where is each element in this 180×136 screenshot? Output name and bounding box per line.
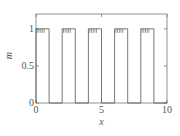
x-tick-label: 5 — [99, 104, 104, 115]
x-tick-label: 0 — [34, 104, 39, 115]
data-series — [36, 29, 167, 103]
y-tick-label: 0.5 — [22, 60, 35, 71]
y-axis-label: m — [3, 52, 14, 59]
y-tick-label: 1 — [29, 23, 34, 34]
x-tick-label: 10 — [162, 104, 172, 115]
y-tick-label: 0 — [29, 97, 34, 108]
x-axis-label: x — [98, 116, 104, 127]
pulse-chart: 051000.51 xm — [0, 0, 180, 136]
axis-labels: xm — [3, 52, 104, 127]
pulse-line — [36, 29, 167, 103]
